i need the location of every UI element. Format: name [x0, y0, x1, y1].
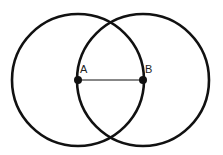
point-a	[74, 76, 82, 84]
construction-diagram: A B	[0, 0, 223, 155]
point-b	[139, 76, 147, 84]
diagram-canvas: A B	[0, 0, 223, 155]
label-b: B	[145, 63, 152, 75]
label-a: A	[80, 63, 88, 75]
